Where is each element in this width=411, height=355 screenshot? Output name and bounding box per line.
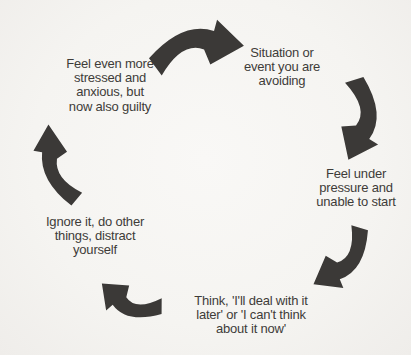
stage-label-pressure: Feel under pressure and unable to start xyxy=(301,167,411,210)
avoidance-cycle-diagram: Situation or event you are avoiding Feel… xyxy=(0,0,411,355)
curved-arrow-bottom-left-icon xyxy=(90,260,175,338)
curved-arrow-left-icon xyxy=(28,118,92,214)
stage-label-think-later: Think, 'I'll deal with it later' or 'I c… xyxy=(181,294,321,337)
stage-label-ignore: Ignore it, do other things, distract you… xyxy=(35,215,155,258)
curved-arrow-right-lower-icon xyxy=(294,211,389,302)
curved-arrow-top-icon xyxy=(144,17,247,86)
